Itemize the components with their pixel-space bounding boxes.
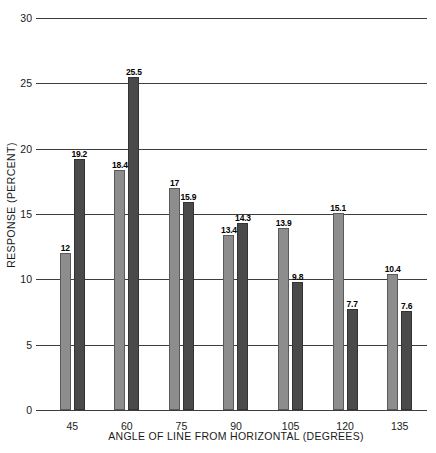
x-axis-title: ANGLE OF LINE FROM HORIZONTAL (DEGREES) bbox=[45, 430, 427, 442]
bar-group-105: 13.99.8105 bbox=[263, 18, 318, 410]
bar-value-label-75-series-light: 17 bbox=[170, 178, 179, 188]
bar-120-series-light: 15.1 bbox=[333, 213, 344, 410]
y-tick-mark-15 bbox=[36, 214, 45, 215]
bar-group-75: 1715.975 bbox=[154, 18, 209, 410]
y-tick-label-0: 0 bbox=[26, 404, 32, 416]
bar-value-label-105-series-light: 13.9 bbox=[276, 218, 292, 228]
y-tick-mark-20 bbox=[36, 149, 45, 150]
bar-135-series-light: 10.4 bbox=[387, 274, 398, 410]
bar-value-label-120-series-dark: 7.7 bbox=[347, 299, 358, 309]
bar-value-label-75-series-dark: 15.9 bbox=[181, 192, 197, 202]
bar-value-label-60-series-dark: 25.5 bbox=[126, 67, 142, 77]
bar-value-label-90-series-light: 13.4 bbox=[221, 225, 237, 235]
bar-group-45: 1219.245 bbox=[45, 18, 100, 410]
bar-105-series-dark: 9.8 bbox=[292, 282, 303, 410]
y-tick-mark-10 bbox=[36, 279, 45, 280]
plot-area: 0510152025301219.24518.425.5601715.97513… bbox=[45, 18, 427, 410]
bar-group-135: 10.47.6135 bbox=[372, 18, 427, 410]
bar-45-series-dark: 19.2 bbox=[74, 159, 85, 410]
y-axis-title-text: RESPONSE (PERCENT) bbox=[5, 142, 17, 268]
y-axis-title: RESPONSE (PERCENT) bbox=[0, 0, 22, 410]
bar-90-series-light: 13.4 bbox=[223, 235, 234, 410]
bar-60-series-light: 18.4 bbox=[114, 170, 125, 410]
gridline-0 bbox=[45, 410, 427, 411]
bar-value-label-45-series-dark: 19.2 bbox=[71, 149, 87, 159]
bar-value-label-120-series-light: 15.1 bbox=[330, 203, 346, 213]
bar-value-label-105-series-dark: 9.8 bbox=[292, 272, 303, 282]
y-tick-mark-30 bbox=[36, 18, 45, 19]
bar-value-label-135-series-light: 10.4 bbox=[385, 264, 401, 274]
bar-value-label-60-series-light: 18.4 bbox=[112, 160, 128, 170]
bar-135-series-dark: 7.6 bbox=[401, 311, 412, 410]
y-tick-mark-25 bbox=[36, 83, 45, 84]
y-tick-label-15: 15 bbox=[20, 208, 32, 220]
bar-group-60: 18.425.560 bbox=[100, 18, 155, 410]
bar-45-series-light: 12 bbox=[60, 253, 71, 410]
bar-105-series-light: 13.9 bbox=[278, 228, 289, 410]
bar-group-90: 13.414.390 bbox=[209, 18, 264, 410]
y-tick-label-25: 25 bbox=[20, 77, 32, 89]
y-tick-label-20: 20 bbox=[20, 143, 32, 155]
y-tick-label-30: 30 bbox=[20, 12, 32, 24]
bar-120-series-dark: 7.7 bbox=[347, 309, 358, 410]
y-tick-mark-0 bbox=[36, 410, 45, 411]
bar-60-series-dark: 25.5 bbox=[128, 77, 139, 410]
bar-value-label-90-series-dark: 14.3 bbox=[235, 213, 251, 223]
y-tick-mark-5 bbox=[36, 345, 45, 346]
bar-75-series-light: 17 bbox=[169, 188, 180, 410]
bar-75-series-dark: 15.9 bbox=[183, 202, 194, 410]
bar-value-label-45-series-light: 12 bbox=[61, 243, 70, 253]
bar-chart: RESPONSE (PERCENT) 0510152025301219.2451… bbox=[0, 0, 436, 453]
y-tick-label-5: 5 bbox=[26, 339, 32, 351]
y-tick-label-10: 10 bbox=[20, 273, 32, 285]
bar-value-label-135-series-dark: 7.6 bbox=[401, 301, 412, 311]
bar-90-series-dark: 14.3 bbox=[237, 223, 248, 410]
bar-group-120: 15.17.7120 bbox=[318, 18, 373, 410]
